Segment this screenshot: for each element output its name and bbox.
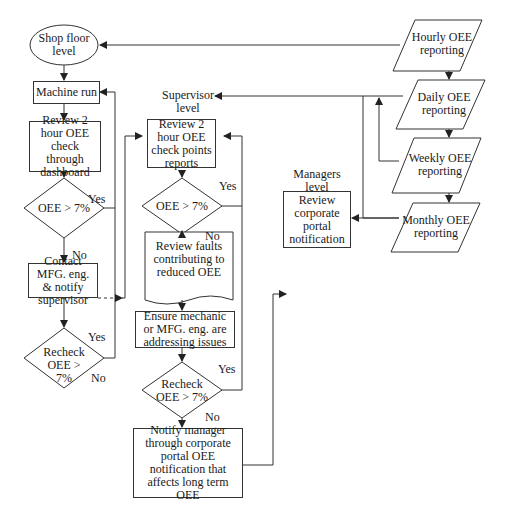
monthly-reporting: Monthly OEE reporting xyxy=(400,214,472,240)
daily-reporting: Daily OEE reporting xyxy=(412,91,476,117)
supervisor-recheck-no: No xyxy=(205,411,220,424)
supervisor-recheck-yes: Yes xyxy=(218,363,235,376)
notify-manager-box: Notify manager through corporate portal … xyxy=(133,428,243,498)
supervisor-level: Supervisor level xyxy=(160,89,216,115)
review-portal-box: Review corporate portal notification xyxy=(283,191,351,248)
supervisor-decision-yes: Yes xyxy=(219,180,236,193)
supervisor-recheck-text: Recheck OEE > 7% xyxy=(155,378,209,404)
shop-recheck-yes: Yes xyxy=(88,331,105,344)
shop-decision-yes: Yes xyxy=(88,193,105,206)
shop-recheck-no: No xyxy=(91,372,106,385)
shop-decision-no: No xyxy=(72,249,87,262)
review-faults-text: Review faults contributing to reduced OE… xyxy=(150,240,228,279)
supervisor-decision-no: No xyxy=(205,230,220,243)
shop-recheck-text: Recheck OEE > 7% xyxy=(38,346,90,385)
contact-mfg-box: Contact MFG. eng. & notify supervisor xyxy=(28,263,98,298)
shop-decision-text: OEE > 7% xyxy=(34,202,94,215)
shop-floor-level: Shop floor level xyxy=(30,30,98,60)
supervisor-decision-text: OEE > 7% xyxy=(152,200,212,213)
hourly-reporting: Hourly OEE reporting xyxy=(410,31,474,57)
machine-run-box: Machine run xyxy=(33,81,100,104)
ensure-mechanic-box: Ensure mechanic or MFG. eng. are address… xyxy=(135,311,235,348)
review-checkpoints-box: Review 2 hour OEE check points reports xyxy=(147,119,216,168)
weekly-reporting: Weekly OEE reporting xyxy=(408,152,472,178)
review-dashboard-box: Review 2 hour OEE check through dashboar… xyxy=(29,121,101,172)
